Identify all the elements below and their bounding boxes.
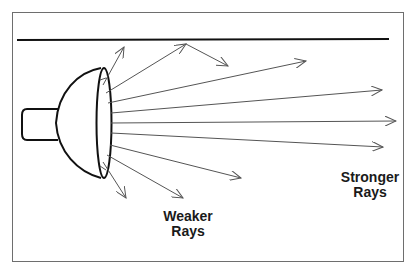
ray-weak-up: [103, 47, 124, 85]
ray-strong-3: [111, 121, 396, 123]
stronger-rays-line2: Rays: [338, 185, 402, 200]
weaker-rays-line2: Rays: [158, 224, 218, 239]
stronger-rays-label: Stronger Rays: [338, 170, 402, 200]
stronger-rays-line1: Stronger: [338, 170, 402, 185]
reflecting-surface: [17, 39, 389, 40]
lamp-icon: [22, 68, 112, 178]
weaker-rays-label: Weaker Rays: [158, 209, 218, 239]
lamp-base: [22, 109, 58, 140]
lamp-lens: [97, 68, 112, 178]
ray-weak-down-2: [107, 155, 183, 198]
ray-reflected: [186, 44, 228, 66]
ray-strong-4: [111, 133, 383, 147]
ray-strong-1: [108, 61, 306, 103]
ray-to-reflector: [106, 44, 186, 93]
weaker-rays-line1: Weaker: [158, 209, 218, 224]
lamp-dome: [56, 68, 101, 178]
ray-weak-down-3: [103, 162, 126, 198]
ray-weak-down-1: [110, 145, 241, 178]
